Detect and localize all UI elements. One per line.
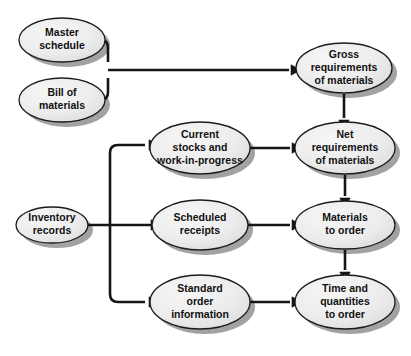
node-label-standard-order-information: order [187, 295, 214, 307]
node-label-scheduled-receipts: receipts [180, 224, 220, 236]
node-label-master-schedule: schedule [39, 39, 85, 51]
node-label-time-and-quantities: quantities [320, 295, 370, 307]
node-label-master-schedule: Master [45, 26, 79, 38]
node-bill-of-materials[interactable]: Bill ofmaterials [19, 78, 105, 122]
node-label-net-requirements: Net [337, 128, 354, 140]
node-label-scheduled-receipts: Scheduled [173, 211, 226, 223]
node-label-time-and-quantities: to order [325, 308, 365, 320]
node-label-gross-requirements: requirements [311, 61, 378, 73]
node-time-and-quantities[interactable]: Time andquantitiesto order [295, 275, 395, 329]
flowchart-canvas: MasterscheduleBill ofmaterialsInventoryr… [0, 0, 411, 356]
flowchart-diagram: MasterscheduleBill ofmaterialsInventoryr… [0, 0, 411, 356]
node-label-current-stocks: stocks and [173, 141, 228, 153]
arrowhead-layer [149, 65, 350, 307]
node-label-current-stocks: work-in-progress [156, 154, 243, 166]
node-label-current-stocks: Current [181, 128, 219, 140]
node-materials-to-order[interactable]: Materialsto order [295, 201, 395, 249]
node-label-materials-to-order: to order [325, 224, 365, 236]
node-label-time-and-quantities: Time and [322, 282, 368, 294]
node-scheduled-receipts[interactable]: Scheduledreceipts [152, 200, 248, 250]
node-label-net-requirements: of materials [316, 154, 375, 166]
node-label-net-requirements: requirements [312, 141, 379, 153]
node-label-gross-requirements: Gross [329, 48, 360, 60]
connector-spine-to-current-stocks [110, 145, 145, 225]
connector-spine-to-standard-order [110, 225, 145, 302]
node-label-materials-to-order: Materials [322, 211, 368, 223]
node-label-gross-requirements: of materials [315, 74, 374, 86]
node-label-inventory-records: Inventory [28, 211, 75, 223]
node-inventory-records[interactable]: Inventoryrecords [16, 207, 88, 243]
node-label-bill-of-materials: materials [39, 99, 85, 111]
node-label-bill-of-materials: Bill of [47, 86, 77, 98]
node-label-standard-order-information: information [171, 308, 229, 320]
node-gross-requirements[interactable]: Grossrequirementsof materials [296, 43, 392, 93]
node-net-requirements[interactable]: Netrequirementsof materials [295, 122, 395, 174]
node-current-stocks[interactable]: Currentstocks andwork-in-progress [150, 122, 250, 174]
node-label-inventory-records: records [33, 224, 72, 236]
node-standard-order-information[interactable]: Standardorderinformation [150, 275, 250, 329]
node-label-standard-order-information: Standard [177, 282, 223, 294]
node-master-schedule[interactable]: Masterschedule [19, 18, 105, 62]
